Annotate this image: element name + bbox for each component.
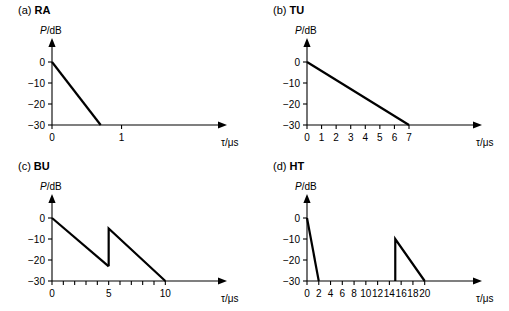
panel-c-plot: 0−10−20−300510P/dBτ/μs	[0, 156, 254, 311]
panel-a-ra: (a)RA 0−10−20−3001P/dBτ/μs	[0, 0, 254, 155]
y-tick-label: −20	[28, 99, 45, 110]
x-tick-label: 0	[304, 132, 310, 143]
y-tick-label: −10	[283, 78, 300, 89]
x-tick-label: 16	[396, 288, 408, 299]
x-tick-label: 12	[372, 288, 384, 299]
y-tick-label: −30	[283, 276, 300, 287]
y-tick-label: −10	[28, 78, 45, 89]
y-axis-arrow-icon	[48, 194, 55, 203]
y-tick-label: 0	[294, 57, 300, 68]
x-tick-label: 2	[316, 288, 322, 299]
plot-content: 0−10−20−300510P/dBτ/μs	[28, 181, 238, 304]
y-tick-label: −10	[283, 234, 300, 245]
y-tick-label: −30	[28, 276, 45, 287]
y-axis-arrow-icon	[303, 194, 310, 203]
panel-c-bu: (c)BU 0−10−20−300510P/dBτ/μs	[0, 156, 254, 311]
x-axis-label: τ/μs	[221, 293, 239, 304]
x-tick-label: 3	[348, 132, 354, 143]
plot-content: 0−10−20−3001234567P/dBτ/μs	[283, 25, 493, 148]
data-series-line	[52, 218, 109, 266]
y-tick-label: −20	[283, 99, 300, 110]
data-series-line	[109, 229, 166, 282]
y-tick-label: 0	[294, 213, 300, 224]
panel-d-plot: 0−10−20−3002468101214161820P/dBτ/μs	[255, 156, 509, 311]
panel-b-plot: 0−10−20−3001234567P/dBτ/μs	[255, 0, 509, 155]
x-tick-label: 20	[419, 288, 431, 299]
x-axis-arrow-icon	[473, 277, 482, 284]
x-tick-label: 0	[49, 288, 55, 299]
panel-b-tu: (b)TU 0−10−20−3001234567P/dBτ/μs	[255, 0, 509, 155]
panel-d-ht: (d)HT 0−10−20−3002468101214161820P/dBτ/μ…	[255, 156, 509, 311]
x-tick-label: 10	[160, 288, 172, 299]
x-tick-label: 6	[340, 288, 346, 299]
x-tick-label: 6	[392, 132, 398, 143]
y-tick-label: −10	[28, 234, 45, 245]
y-tick-label: −30	[28, 120, 45, 131]
x-axis-label: τ/μs	[221, 137, 239, 148]
x-tick-label: 8	[351, 288, 357, 299]
x-axis-arrow-icon	[473, 121, 482, 128]
x-tick-label: 10	[360, 288, 372, 299]
y-tick-label: 0	[39, 57, 45, 68]
y-tick-label: −30	[283, 120, 300, 131]
power-delay-profile-figure: (a)RA 0−10−20−3001P/dBτ/μs (b)TU 0−10−20…	[0, 0, 509, 311]
x-tick-label: 4	[363, 132, 369, 143]
x-tick-label: 5	[377, 132, 383, 143]
y-axis-label: P/dB	[295, 25, 317, 36]
x-tick-label: 5	[106, 288, 112, 299]
x-tick-label: 0	[304, 288, 310, 299]
data-series-line	[307, 62, 409, 125]
x-axis-arrow-icon	[218, 277, 227, 284]
y-tick-label: 0	[39, 213, 45, 224]
data-series-line	[307, 218, 319, 281]
data-series-line	[395, 239, 424, 281]
y-axis-label: P/dB	[40, 25, 62, 36]
y-axis-label: P/dB	[295, 181, 317, 192]
x-tick-label: 7	[406, 132, 412, 143]
x-tick-label: 18	[407, 288, 419, 299]
plot-content: 0−10−20−3001P/dBτ/μs	[28, 25, 238, 148]
x-axis-label: τ/μs	[476, 293, 494, 304]
x-axis-arrow-icon	[218, 121, 227, 128]
y-axis-arrow-icon	[303, 38, 310, 47]
x-tick-label: 1	[119, 132, 125, 143]
x-tick-label: 1	[319, 132, 325, 143]
panel-a-plot: 0−10−20−3001P/dBτ/μs	[0, 0, 254, 155]
x-tick-label: 0	[49, 132, 55, 143]
plot-content: 0−10−20−3002468101214161820P/dBτ/μs	[283, 181, 493, 304]
data-series-line	[52, 62, 101, 125]
x-tick-label: 4	[328, 288, 334, 299]
y-tick-label: −20	[283, 255, 300, 266]
x-axis-label: τ/μs	[476, 137, 494, 148]
y-axis-label: P/dB	[40, 181, 62, 192]
y-tick-label: −20	[28, 255, 45, 266]
y-axis-arrow-icon	[48, 38, 55, 47]
x-tick-label: 2	[333, 132, 339, 143]
x-tick-label: 14	[384, 288, 396, 299]
